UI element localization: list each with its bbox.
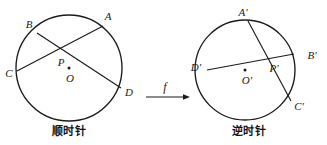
- right-center-dot: [244, 69, 247, 72]
- label-point-c: C: [5, 68, 12, 79]
- right-chord-D-prime-B-prime: [207, 54, 294, 70]
- label-point-p-prime: P': [269, 63, 278, 74]
- caption-right-counterclockwise: 逆时针: [232, 126, 267, 137]
- label-center-o-prime: O': [242, 75, 252, 86]
- left-chord-BD: [37, 33, 121, 88]
- label-point-p: P: [58, 57, 65, 68]
- geometry-figure: A B C D P O f A' B' C' D' P' O' 顺时针 逆时针: [0, 0, 327, 145]
- label-center-o: O: [66, 73, 74, 84]
- label-point-a-prime: A': [238, 7, 247, 18]
- caption-left-clockwise: 顺时针: [52, 126, 87, 137]
- label-mapping-f: f: [163, 81, 166, 93]
- label-point-c-prime: C': [294, 101, 304, 112]
- label-point-d-prime: D': [191, 62, 201, 73]
- left-center-dot: [68, 67, 71, 70]
- label-point-d: D: [125, 87, 133, 98]
- label-point-b-prime: B': [307, 50, 316, 61]
- transformation-arrow: [146, 94, 190, 100]
- label-point-a: A: [105, 11, 112, 22]
- label-point-b: B: [26, 19, 33, 30]
